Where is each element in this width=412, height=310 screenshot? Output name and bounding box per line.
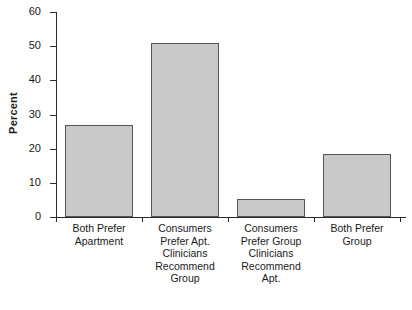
x-axis-label-line: Recommend (228, 260, 314, 273)
y-tick-label: 20 (29, 142, 41, 155)
y-tick-label: 40 (29, 73, 41, 86)
y-tick-label: 60 (29, 5, 41, 18)
x-axis-label-line: Group (314, 235, 400, 248)
bar (65, 125, 134, 217)
y-axis-title: Percent (2, 0, 24, 225)
x-axis-label-line: Both Prefer (56, 222, 142, 235)
x-axis-label-line: Group (142, 272, 228, 285)
x-axis-label: Both PreferGroup (314, 222, 400, 247)
x-axis-label-line: Apt. (228, 272, 314, 285)
y-tick-label: 50 (29, 39, 41, 52)
bar (237, 199, 306, 217)
x-axis-label: Both PreferApartment (56, 222, 142, 247)
x-axis-label-line: Prefer Group (228, 235, 314, 248)
x-axis-label-line: Recommend (142, 260, 228, 273)
y-axis-line (56, 12, 57, 217)
x-axis-label-line: Consumers (228, 222, 314, 235)
y-tick: 30 (50, 115, 56, 116)
x-axis-label-line: Both Prefer (314, 222, 400, 235)
x-axis-line (56, 217, 406, 218)
y-tick-label: 0 (35, 210, 41, 223)
x-axis-label-line: Clinicians (142, 247, 228, 260)
y-tick: 50 (50, 46, 56, 47)
bar (151, 43, 220, 217)
y-tick: 60 (50, 12, 56, 13)
bar (323, 154, 392, 217)
x-axis-label-line: Prefer Apt. (142, 235, 228, 248)
y-tick-label: 30 (29, 108, 41, 121)
y-tick: 10 (50, 183, 56, 184)
y-tick-label: 10 (29, 176, 41, 189)
x-axis-label-line: Consumers (142, 222, 228, 235)
y-tick: 40 (50, 80, 56, 81)
x-axis-label-line: Clinicians (228, 247, 314, 260)
x-axis-labels: Both PreferApartmentConsumersPrefer Apt.… (56, 222, 406, 308)
y-axis-title-text: Percent (7, 92, 19, 134)
x-axis-label: ConsumersPrefer Apt.CliniciansRecommendG… (142, 222, 228, 285)
x-axis-label: ConsumersPrefer GroupCliniciansRecommend… (228, 222, 314, 285)
y-tick: 20 (50, 149, 56, 150)
plot-area: 0102030405060 (56, 12, 400, 217)
x-axis-label-line: Apartment (56, 235, 142, 248)
bar-chart: Percent 0102030405060 Both PreferApartme… (0, 0, 412, 310)
